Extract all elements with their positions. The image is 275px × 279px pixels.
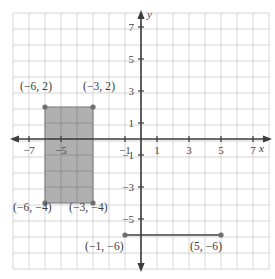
point-label-neg3-neg4: (−3, −4) xyxy=(69,201,108,213)
svg-text:5: 5 xyxy=(129,53,135,65)
coordinate-plane-figure: −7−5−113577531−1−3−5 x y (−6, 2) (−3, 2)… xyxy=(0,0,275,279)
svg-text:1: 1 xyxy=(129,117,135,129)
point-label-neg6-neg4: (−6, −4) xyxy=(13,201,52,213)
svg-text:7: 7 xyxy=(250,144,256,156)
y-axis-label: y xyxy=(146,8,152,20)
svg-text:−1: −1 xyxy=(122,149,134,161)
svg-text:5: 5 xyxy=(218,144,224,156)
svg-text:−5: −5 xyxy=(122,213,134,225)
svg-text:−5: −5 xyxy=(55,144,67,156)
coordinate-plane-svg: −7−5−113577531−1−3−5 x y xyxy=(0,0,275,279)
point-label-neg3-2: (−3, 2) xyxy=(83,80,115,92)
svg-text:3: 3 xyxy=(129,85,135,97)
point-label-neg6-2: (−6, 2) xyxy=(20,80,52,92)
point-label-5-neg6: (5, −6) xyxy=(190,240,222,252)
x-axis-label: x xyxy=(258,142,264,154)
svg-text:−3: −3 xyxy=(122,181,134,193)
point-label-neg1-neg6: (−1, −6) xyxy=(85,240,124,252)
svg-text:−7: −7 xyxy=(23,144,35,156)
svg-text:1: 1 xyxy=(154,144,160,156)
svg-text:7: 7 xyxy=(129,21,135,33)
svg-text:3: 3 xyxy=(186,144,192,156)
